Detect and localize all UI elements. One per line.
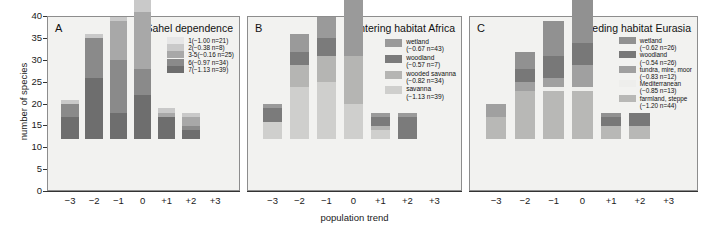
x-tick-label: −3 — [262, 195, 284, 206]
panel-c-plot — [470, 17, 697, 190]
bar — [543, 21, 564, 139]
y-tick-label: 35 — [0, 32, 42, 43]
bar — [182, 113, 199, 139]
x-tick-label: −2 — [83, 195, 105, 206]
bar-segment — [134, 12, 151, 69]
y-tick-label: 15 — [0, 119, 42, 130]
bar — [515, 52, 536, 140]
bar-segment — [158, 113, 175, 117]
bar — [290, 34, 309, 139]
x-tick-label: +1 — [156, 195, 178, 206]
bar-segment — [629, 126, 650, 139]
x-axis-line — [47, 191, 240, 192]
x-axis-line — [247, 191, 462, 192]
bar — [158, 108, 175, 139]
bar-segment — [263, 122, 282, 140]
bar-segment — [158, 117, 175, 139]
x-tick-label: −1 — [107, 195, 129, 206]
x-tick-label: −1 — [315, 195, 337, 206]
bar-segment — [263, 104, 282, 108]
bar — [85, 34, 102, 139]
bar-segment — [61, 117, 78, 139]
bar-segment — [61, 104, 78, 117]
bar-segment — [398, 117, 417, 139]
x-tick-label: 0 — [132, 195, 154, 206]
bar-segment — [543, 56, 564, 78]
bar-segment — [371, 113, 390, 117]
y-tick-label: 25 — [0, 76, 42, 87]
bar-segment — [572, 91, 593, 139]
bar-segment — [572, 87, 593, 91]
bar — [263, 104, 282, 139]
y-tick-label: 10 — [0, 141, 42, 152]
x-tick-label: −2 — [514, 195, 536, 206]
bar-segment — [134, 0, 151, 12]
bar-segment — [182, 126, 199, 130]
x-axis-title: population trend — [247, 212, 462, 223]
x-tick-label: 0 — [571, 195, 593, 206]
bar-segment — [486, 104, 507, 117]
bar-segment — [110, 17, 127, 21]
x-tick-label: +2 — [629, 195, 651, 206]
x-tick-label: −1 — [543, 195, 565, 206]
bar-segment — [182, 130, 199, 139]
panel-b: B wintering habitat Africa wetland(−0.67… — [247, 16, 462, 191]
bar-segment — [601, 117, 622, 126]
x-axis-line — [469, 191, 698, 192]
bar-segment — [182, 117, 199, 126]
bar-segment — [486, 117, 507, 139]
bar-segment — [601, 113, 622, 117]
bar — [317, 17, 336, 140]
bar-segment — [515, 91, 536, 139]
bar-segment — [371, 130, 390, 139]
bar-segment — [110, 21, 127, 60]
bar-segment — [290, 34, 309, 52]
bar-segment — [182, 113, 199, 117]
bar-segment — [85, 38, 102, 77]
bar — [629, 113, 650, 139]
bar-segment — [515, 69, 536, 82]
bar-segment — [317, 56, 336, 82]
bar — [134, 0, 151, 139]
bar-segment — [158, 108, 175, 112]
bar-segment — [317, 38, 336, 56]
panel-b-plot — [248, 17, 461, 190]
x-tick-label: +3 — [658, 195, 680, 206]
bar-segment — [344, 0, 363, 56]
bar-segment — [543, 87, 564, 91]
bar-segment — [371, 117, 390, 126]
bar-segment — [572, 43, 593, 65]
bar — [601, 113, 622, 139]
bar — [344, 0, 363, 139]
y-tick-label: 30 — [0, 54, 42, 65]
x-tick-label: 0 — [342, 195, 364, 206]
x-tick-label: +1 — [600, 195, 622, 206]
bar-segment — [344, 56, 363, 104]
y-tick-label: 20 — [0, 98, 42, 109]
bar-segment — [543, 78, 564, 87]
x-tick-label: +3 — [204, 195, 226, 206]
bar-segment — [572, 0, 593, 43]
bar-segment — [317, 17, 336, 39]
bar-segment — [85, 78, 102, 139]
bar-segment — [601, 126, 622, 139]
bar — [61, 100, 78, 139]
bar — [398, 113, 417, 139]
bar-segment — [290, 52, 309, 65]
panel-c: C breeding habitat Eurasia wetland(−0.62… — [469, 16, 698, 191]
bar-segment — [344, 104, 363, 139]
x-tick-label: −2 — [288, 195, 310, 206]
bar — [486, 104, 507, 139]
bar-segment — [371, 126, 390, 130]
y-tick-label: 40 — [0, 10, 42, 21]
bar-segment — [572, 65, 593, 87]
x-tick-label: +3 — [423, 195, 445, 206]
x-tick-label: +1 — [369, 195, 391, 206]
y-tick-label: 5 — [0, 163, 42, 174]
bar-segment — [134, 95, 151, 139]
panel-a-plot — [48, 17, 239, 190]
bar-segment — [263, 108, 282, 121]
bar-segment — [543, 91, 564, 139]
x-tick-label: −3 — [59, 195, 81, 206]
bar — [572, 0, 593, 139]
